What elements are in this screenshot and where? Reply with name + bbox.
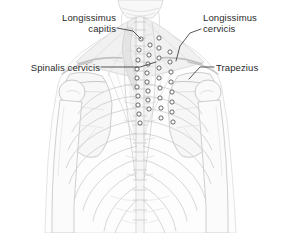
label-longissimus-capitis: Longissimus capitis [34,12,116,34]
anatomy-figure: Longissimus capitis Longissimus cervicis… [0,0,281,233]
label-longissimus-cervicis: Longissimus cervicis [203,12,279,34]
label-spinalis-cervicis: Spinalis cervicis [14,62,100,73]
anatomy-illustration [0,0,281,233]
label-trapezius: Trapezius [216,62,276,73]
